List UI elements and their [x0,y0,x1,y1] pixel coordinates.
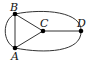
edge-B-A-curved [5,14,15,48]
label-A: A [10,50,19,61]
edge-A-D-curved [15,31,81,51]
label-B: B [9,1,18,14]
edge-A-C [15,31,43,48]
edge-B-C [15,14,43,31]
label-D: D [76,17,86,30]
graph-diagram: B C D A [0,0,89,61]
label-C: C [40,17,49,30]
